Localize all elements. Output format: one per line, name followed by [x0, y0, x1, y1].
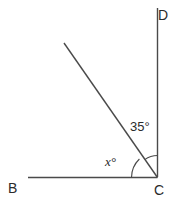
vertex-label-d: D — [158, 8, 168, 22]
geometry-figure: D B C 35° x° — [0, 0, 177, 208]
angle-measure-label-35: 35° — [130, 120, 150, 133]
vertex-label-b: B — [8, 181, 17, 195]
angle-measure-label-x: x° — [105, 155, 116, 168]
figure-canvas — [0, 0, 177, 208]
angle-arc-x — [132, 159, 140, 178]
angle-arc-35 — [145, 156, 158, 160]
vertex-label-c: C — [154, 183, 164, 197]
